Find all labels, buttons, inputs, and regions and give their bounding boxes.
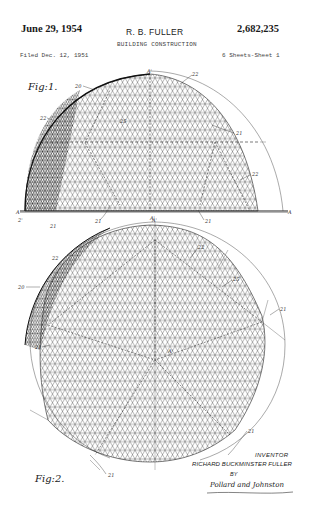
figure-1-elevation: Fig:1. 20 A' 22 22 25 21 22 A A 2' A' 21… [15,68,292,229]
svg-text:21: 21 [94,218,101,224]
svg-text:A': A' [167,348,173,354]
signature-underline [205,490,295,496]
svg-text:20: 20 [17,284,25,290]
inventor-full-name: RICHARD BUCKMINSTER FULLER [192,461,292,467]
svg-text:21: 21 [49,223,56,229]
svg-text:A: A [15,209,20,215]
svg-text:22: 22 [251,171,258,177]
svg-text:21: 21 [235,130,242,136]
svg-text:21: 21 [34,344,41,350]
fig-1-label: Fig:1. [27,81,57,92]
patent-drawing: Fig:1. 20 A' 22 22 25 21 22 A A 2' A' 21… [0,0,309,526]
svg-text:21: 21 [247,428,254,434]
svg-text:22: 22 [191,71,198,77]
svg-text:21: 21 [204,218,211,224]
fig-2-label: Fig:2. [34,473,64,484]
svg-text:A': A' [146,68,152,74]
svg-text:2': 2' [17,217,23,223]
svg-text:22: 22 [39,115,46,121]
figure-2-plan: Fig:2. A' 22 22 25 20 21 21 A' 21 21 [17,217,286,484]
svg-text:22: 22 [51,255,58,261]
svg-text:21: 21 [107,472,114,478]
svg-text:25: 25 [119,118,126,124]
svg-text:21: 21 [279,306,286,312]
svg-text:A': A' [151,217,157,223]
inventor-label: INVENTOR [255,452,288,458]
svg-text:22: 22 [197,244,204,250]
by-label: BY [230,471,237,477]
svg-text:25: 25 [232,276,239,282]
svg-text:A: A [287,209,292,215]
svg-text:20: 20 [74,83,82,89]
attorney-signature: Pollard and Johnston [210,481,284,489]
